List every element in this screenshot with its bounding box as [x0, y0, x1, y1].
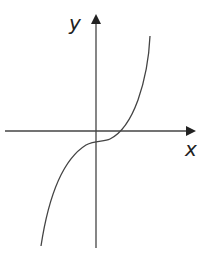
y-axis-label: y [68, 11, 82, 35]
graph: y x [0, 0, 205, 253]
x-axis-label: x [184, 137, 197, 161]
